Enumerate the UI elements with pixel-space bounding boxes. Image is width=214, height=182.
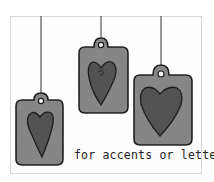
right-heart-tag: [134, 65, 192, 145]
middle-heart-tag: [79, 38, 128, 113]
caption-text: for accents or letters: [74, 148, 204, 162]
left-heart-tag: [16, 93, 63, 165]
